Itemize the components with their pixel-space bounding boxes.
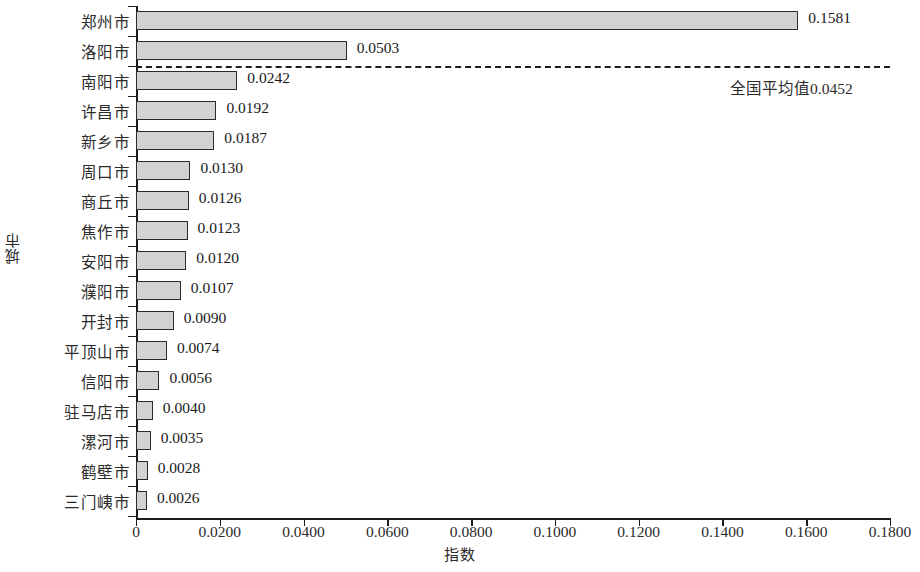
x-axis-tick-label: 0.1600 [785,523,828,541]
y-axis-tick [128,156,136,157]
bar-value-label: 0.0107 [191,279,234,297]
category-label: 漯河市 [4,430,130,452]
bar-row: 0.1581 [136,6,890,36]
category-label: 许昌市 [4,100,130,122]
bar-value-label: 0.0187 [224,129,267,147]
x-axis-tick-label: 0.0200 [198,523,241,541]
bar-value-label: 0.0074 [177,339,220,357]
bar [136,491,147,510]
y-axis-tick [128,126,136,127]
category-label: 安阳市 [4,250,130,272]
bar-row: 0.0107 [136,276,890,306]
bar-row: 0.0126 [136,186,890,216]
y-axis-tick [128,246,136,247]
bar-value-label: 0.0126 [199,189,242,207]
category-label: 驻马店市 [4,400,130,422]
bar-value-label: 0.0130 [200,159,243,177]
y-axis-tick [128,456,136,457]
bar [136,311,174,330]
bar-value-label: 0.0026 [157,489,200,507]
category-label: 濮阳市 [4,280,130,302]
category-label: 三门峓市 [4,490,130,512]
category-label: 周口市 [4,160,130,182]
bar [136,221,188,240]
x-axis-tick-label: 0.1200 [617,523,660,541]
bar [136,371,159,390]
bar-row: 0.0074 [136,336,890,366]
y-axis-tick [128,336,136,337]
y-axis-tick [128,216,136,217]
y-axis-tick [128,426,136,427]
bar-row: 0.0187 [136,126,890,156]
y-axis-tick [128,366,136,367]
national-average-label: 全国平均值0.0452 [730,76,853,98]
y-axis-tick [128,486,136,487]
bar [136,131,214,150]
category-label: 平顶山市 [4,340,130,362]
bar [136,191,189,210]
category-label: 开封市 [4,310,130,332]
y-axis-tick [128,96,136,97]
bar-row: 0.0503 [136,36,890,66]
category-label: 郑州市 [4,10,130,32]
bar-row: 0.0028 [136,456,890,486]
bar [136,461,148,480]
bar [136,341,167,360]
y-axis-tick [128,516,136,517]
y-axis-tick [128,36,136,37]
category-label: 信阳市 [4,370,130,392]
category-label: 南阳市 [4,70,130,92]
bar-row: 0.0040 [136,396,890,426]
bar [136,401,153,420]
y-axis-tick [128,276,136,277]
x-axis-tick-label: 0.1400 [701,523,744,541]
y-axis-tick [128,66,136,67]
bar-row: 0.0192 [136,96,890,126]
bar-row: 0.0130 [136,156,890,186]
y-axis-tick [128,306,136,307]
x-axis-tick-label: 0.0600 [366,523,409,541]
bar-value-label: 0.0503 [357,39,400,57]
category-label: 新乡市 [4,130,130,152]
x-axis-tick-label: 0.1000 [534,523,577,541]
bar-value-label: 0.0040 [163,399,206,417]
x-axis-tick-label: 0.1800 [869,523,912,541]
bar [136,281,181,300]
bar [136,251,186,270]
bar-value-label: 0.0242 [247,69,290,87]
bar [136,101,216,120]
bar-value-label: 0.0028 [158,459,201,477]
bar-row: 0.0123 [136,216,890,246]
x-axis-line [136,518,890,520]
y-axis-tick [128,6,136,7]
bar-value-label: 0.0120 [196,249,239,267]
bar-chart: 城市 指数 0.15810.05030.02420.01920.01870.01… [0,0,920,572]
bar-row: 0.0035 [136,426,890,456]
bar-value-label: 0.0090 [184,309,227,327]
bar [136,71,237,90]
bar-row: 0.0026 [136,486,890,516]
bar-row: 0.0120 [136,246,890,276]
x-axis-tick-label: 0.0800 [450,523,493,541]
bar-value-label: 0.0192 [226,99,269,117]
category-label: 焦作市 [4,220,130,242]
bar-value-label: 0.0035 [161,429,204,447]
x-axis-tick-label: 0.0400 [282,523,325,541]
y-axis-tick [128,396,136,397]
bar-value-label: 0.1581 [808,9,851,27]
category-label: 商丘市 [4,190,130,212]
category-label: 洛阳市 [4,40,130,62]
bar-value-label: 0.0123 [198,219,241,237]
bar-value-label: 0.0056 [169,369,212,387]
x-axis-title: 指数 [0,543,920,564]
bar [136,431,151,450]
y-axis-tick [128,186,136,187]
category-label: 鹤壁市 [4,460,130,482]
bar-row: 0.0056 [136,366,890,396]
x-axis-tick-label: 0 [132,523,140,541]
bar [136,11,798,30]
bar [136,41,347,60]
national-average-line [136,66,890,68]
bar-row: 0.0090 [136,306,890,336]
bar [136,161,190,180]
